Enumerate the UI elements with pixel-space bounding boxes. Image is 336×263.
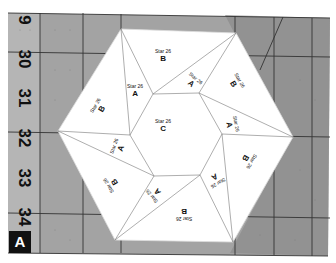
ruler-number: 32 [14,126,34,150]
piece-letter: A [127,89,143,98]
piece-star-name: Star 26 [176,216,192,222]
ruler-number: 34 [14,205,34,229]
piece-label-b-top: Star 26B [155,48,171,63]
step-badge: A [9,231,31,253]
piece-label-a-right: Star 26A [223,115,241,133]
photo-scene: 9 30 31 32 33 34 A Star 26C Star 26B Sta… [0,0,336,263]
piece-label-a-top-left: Star 26A [127,83,143,98]
piece-label-b-bottom: Star 26B [176,207,192,222]
piece-letter: B [176,207,192,216]
piece-letter: B [155,54,171,63]
ruler-number: 9 [14,8,34,32]
ruler-number: 33 [14,166,34,190]
ruler-number: 31 [14,86,34,110]
ruler-number: 30 [14,47,34,71]
piece-letter: C [155,124,171,133]
piece-label-center: Star 26C [155,118,171,133]
